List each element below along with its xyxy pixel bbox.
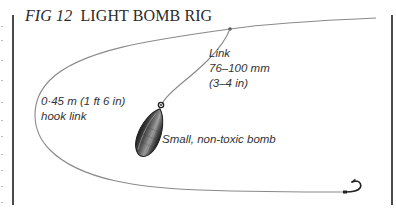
link-label: Link 76–100 mm (3–4 in) bbox=[209, 46, 270, 91]
link-label-title: Link bbox=[209, 46, 270, 61]
bomb-swivel-center bbox=[160, 104, 162, 106]
hook-link-length: 0·45 m (1 ft 6 in) bbox=[41, 94, 125, 109]
hook-link-label: 0·45 m (1 ft 6 in) hook link bbox=[41, 94, 125, 124]
link-label-in: (3–4 in) bbox=[209, 76, 270, 91]
main-line bbox=[230, 18, 376, 29]
bomb-label: Small, non-toxic bomb bbox=[162, 132, 276, 147]
link-label-mm: 76–100 mm bbox=[209, 61, 270, 76]
hook-link-title: hook link bbox=[41, 109, 125, 124]
hook bbox=[343, 180, 361, 194]
